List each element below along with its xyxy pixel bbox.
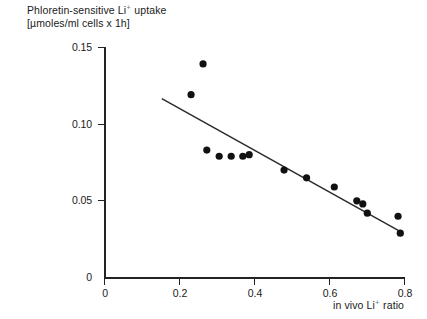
data-point <box>203 146 210 153</box>
data-point <box>187 91 194 98</box>
data-point <box>303 174 310 181</box>
data-point <box>359 200 366 207</box>
data-point <box>239 153 246 160</box>
data-point <box>397 230 404 237</box>
data-point <box>280 166 287 173</box>
data-point-group <box>187 60 403 236</box>
chart-figure: Phloretin-sensitive Li+ uptake [µmoles/m… <box>0 0 427 319</box>
data-point <box>246 151 253 158</box>
plot-area <box>0 0 427 319</box>
data-point <box>364 210 371 217</box>
data-point <box>199 60 206 67</box>
data-point <box>394 213 401 220</box>
data-point <box>228 153 235 160</box>
data-point <box>216 153 223 160</box>
data-point <box>331 183 338 190</box>
